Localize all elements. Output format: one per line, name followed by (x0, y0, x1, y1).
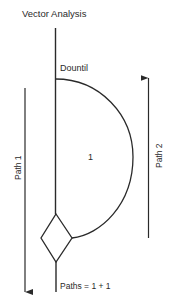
loop-arc (56, 79, 134, 238)
paths-result-label: Paths = 1 + 1 (60, 281, 111, 291)
path2-label: Path 2 (154, 143, 164, 168)
decision-diamond (41, 214, 72, 262)
dountil-label: Dountil (60, 63, 88, 73)
region-label: 1 (88, 152, 93, 162)
path1-label: Path 1 (13, 155, 23, 180)
vector-analysis-diagram: Vector Analysis Dountil 1 Path 1 Path 2 … (0, 0, 174, 301)
diagram-title: Vector Analysis (22, 8, 87, 19)
